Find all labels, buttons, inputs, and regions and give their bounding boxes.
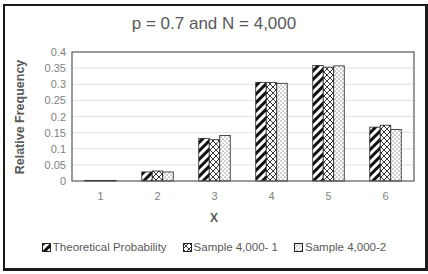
legend-item: Sample 4,000-2 — [294, 241, 386, 253]
bar-dots — [277, 83, 288, 181]
bar-crosshatch — [380, 125, 391, 181]
legend-label: Theoretical Probability — [53, 241, 167, 253]
bar-crosshatch — [266, 83, 277, 181]
bar-crosshatch — [323, 67, 334, 181]
legend-item: Sample 4,000- 1 — [183, 241, 278, 253]
plot-area — [0, 0, 428, 274]
bar-diagonal-stripes — [199, 138, 210, 181]
bar-dots — [391, 129, 402, 181]
legend-item: Theoretical Probability — [42, 241, 167, 253]
legend-label: Sample 4,000-2 — [305, 241, 386, 253]
dots-swatch-icon — [294, 243, 303, 252]
bar-diagonal-stripes — [142, 172, 153, 181]
bar-dots — [334, 66, 345, 181]
legend-label: Sample 4,000- 1 — [194, 241, 278, 253]
bar-crosshatch — [152, 171, 163, 181]
bar-dots — [220, 136, 231, 181]
bar-diagonal-stripes — [313, 66, 324, 181]
legend: Theoretical ProbabilitySample 4,000- 1Sa… — [0, 241, 428, 253]
bar-diagonal-stripes — [256, 82, 267, 181]
diagonal-stripes-swatch-icon — [42, 243, 51, 252]
bar-dots — [163, 172, 174, 181]
bar-crosshatch — [209, 140, 220, 181]
bar-diagonal-stripes — [370, 127, 381, 181]
crosshatch-swatch-icon — [183, 243, 192, 252]
